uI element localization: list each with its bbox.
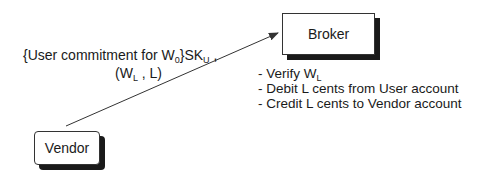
edge-label-commitment: {User commitment for W0}SKU ,	[23, 47, 217, 63]
edge-label-payment: (WL , L)	[115, 65, 162, 81]
action-item: - Credit L cents to Vendor account	[258, 96, 462, 111]
vendor-node: Vendor	[34, 131, 100, 165]
broker-actions-list: - Verify WL - Debit L cents from User ac…	[258, 66, 462, 111]
broker-node: Broker	[282, 13, 375, 55]
broker-label: Broker	[308, 26, 349, 42]
action-item: - Debit L cents from User account	[258, 81, 462, 96]
vendor-label: Vendor	[45, 140, 89, 156]
action-item: - Verify WL	[258, 66, 462, 81]
